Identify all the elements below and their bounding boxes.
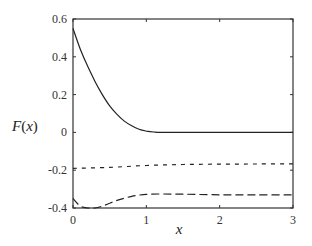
series-dotted: [73, 164, 293, 169]
y-tick-label: 0.2: [52, 88, 67, 102]
y-tick-label: 0: [61, 125, 67, 139]
series-solid: [73, 28, 293, 132]
y-tick-label: 0.6: [52, 12, 67, 26]
y-tick-label: -0.2: [48, 163, 67, 177]
plot-frame: [73, 19, 293, 208]
x-tick-label: 2: [217, 213, 223, 227]
series-dashed: [73, 194, 293, 208]
y-tick-label: 0.4: [52, 50, 67, 64]
x-tick-labels: 0123: [70, 213, 296, 227]
x-axis-label: x: [175, 221, 183, 237]
x-tick-label: 3: [290, 213, 296, 227]
series-lines: [73, 28, 293, 208]
y-tick-labels: 0.60.40.20-0.2-0.4: [48, 12, 67, 215]
y-axis-label: F(x): [11, 118, 38, 135]
x-tick-label: 1: [143, 213, 149, 227]
chart: 0.60.40.20-0.2-0.4 0123 F(x) x: [0, 0, 312, 246]
axis-ticks: [73, 19, 293, 208]
x-tick-label: 0: [70, 213, 76, 227]
y-tick-label: -0.4: [48, 201, 67, 215]
